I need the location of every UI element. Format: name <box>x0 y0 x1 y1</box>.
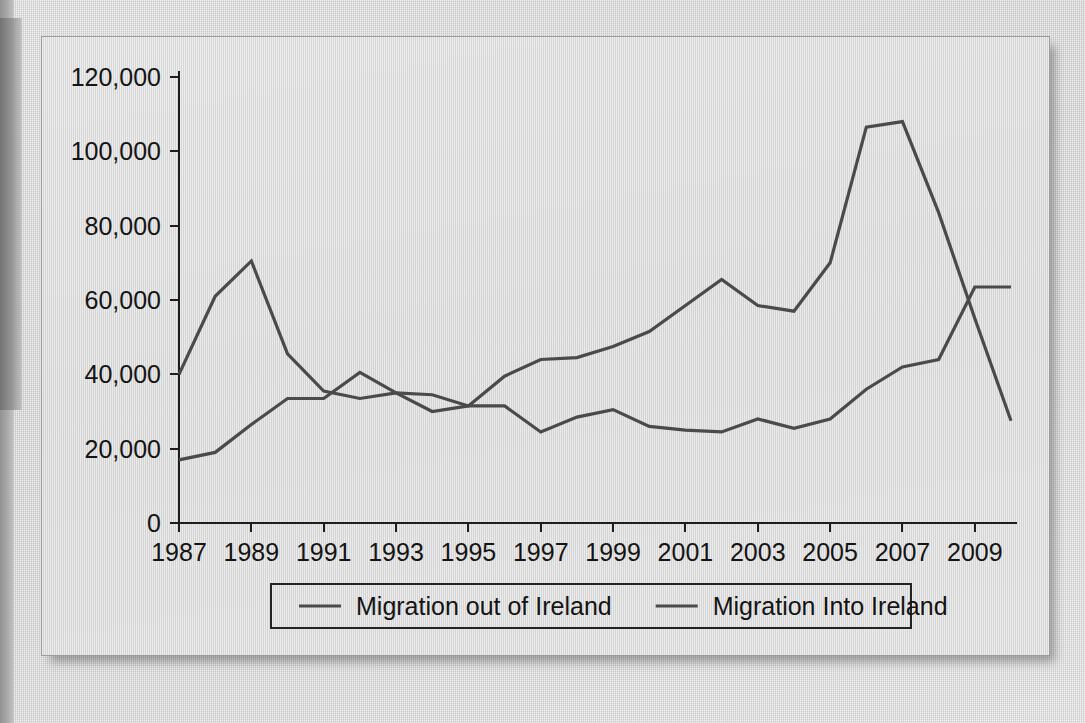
x-tick-label: 1999 <box>585 538 641 566</box>
y-tick-label: 0 <box>147 509 161 537</box>
x-tick-label: 1995 <box>441 538 497 566</box>
series-line-in <box>179 122 1011 460</box>
x-tick-label: 1987 <box>151 538 207 566</box>
scan-left-shadow-edge <box>0 18 22 410</box>
y-tick-label: 20,000 <box>85 435 161 463</box>
legend-label-out: Migration out of Ireland <box>356 592 612 620</box>
chart-legend: Migration out of IrelandMigration Into I… <box>271 584 948 628</box>
legend-label-in: Migration Into Ireland <box>713 592 948 620</box>
x-tick-label: 2009 <box>947 538 1003 566</box>
migration-line-chart: 020,00040,00060,00080,000100,000120,000 … <box>42 37 1051 657</box>
chart-figure-panel: 020,00040,00060,00080,000100,000120,000 … <box>41 36 1050 656</box>
y-tick-label: 80,000 <box>85 212 161 240</box>
chart-series-group <box>179 122 1011 460</box>
x-tick-label: 2003 <box>730 538 786 566</box>
x-tick-label: 1989 <box>224 538 280 566</box>
x-axis-ticks: 1987198919911993199519971999200120032005… <box>151 523 1002 566</box>
y-tick-label: 60,000 <box>85 286 161 314</box>
y-tick-label: 100,000 <box>71 137 161 165</box>
x-tick-label: 2005 <box>802 538 858 566</box>
x-tick-label: 1993 <box>368 538 424 566</box>
x-tick-label: 2007 <box>875 538 931 566</box>
y-tick-label: 40,000 <box>85 360 161 388</box>
y-tick-label: 120,000 <box>71 63 161 91</box>
x-tick-label: 2001 <box>658 538 714 566</box>
series-line-out <box>179 261 1011 432</box>
y-axis-ticks: 020,00040,00060,00080,000100,000120,000 <box>71 63 179 537</box>
x-tick-label: 1991 <box>296 538 352 566</box>
x-tick-label: 1997 <box>513 538 569 566</box>
chart-axes <box>179 71 1017 523</box>
